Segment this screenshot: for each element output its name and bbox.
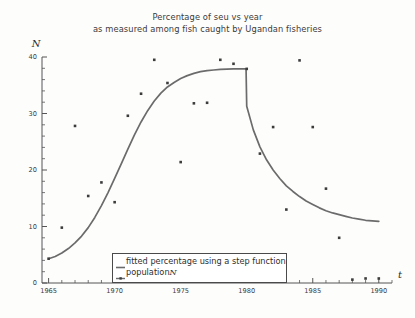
data-point-marker (325, 187, 328, 190)
legend-label-population: populationN (126, 267, 177, 278)
x-axis-tick-label: 1970 (106, 287, 123, 295)
data-point-marker (113, 201, 116, 204)
data-point-marker (166, 82, 169, 85)
data-point-marker (153, 59, 156, 62)
legend-item-population: populationN (116, 267, 282, 278)
data-point-marker (127, 114, 130, 117)
data-point-marker (61, 226, 64, 229)
chart-figure: Percentage of seu vs year as measured am… (0, 0, 415, 318)
data-point-marker (47, 257, 50, 260)
chart-legend: fitted percentage using a step function … (112, 253, 287, 283)
axes (42, 57, 392, 283)
y-axis-tick-label: 0 (33, 279, 37, 287)
data-point-marker (298, 59, 301, 62)
data-point-marker (259, 152, 262, 155)
data-point-marker (206, 101, 209, 104)
data-point-marker (100, 181, 103, 184)
legend-line-swatch-fitted (116, 257, 125, 266)
data-point-marker (364, 277, 367, 280)
fitted-step-curve (49, 69, 379, 259)
legend-label-fitted: fitted percentage using a step function (126, 256, 286, 267)
y-axis-tick-label: 30 (29, 110, 37, 118)
x-axis-tick-labels: 196519701975198019851990 (40, 287, 387, 295)
x-axis-tick-label: 1990 (370, 287, 387, 295)
x-axis-label: t (398, 269, 403, 280)
data-point-marker (74, 125, 77, 128)
y-axis-ticks (42, 57, 47, 283)
y-axis-tick-label: 20 (29, 166, 37, 174)
y-axis-label: N (31, 38, 42, 49)
data-point-marker (179, 161, 182, 164)
data-point-marker (311, 126, 314, 129)
data-point-marker (193, 102, 196, 105)
data-point-marker (232, 62, 235, 65)
data-point-marker (377, 277, 380, 280)
y-axis-tick-labels: 010203040 (29, 53, 37, 287)
x-axis-tick-label: 1975 (172, 287, 189, 295)
data-point-marker (140, 92, 143, 95)
data-point-marker (338, 237, 341, 240)
data-point-marker (351, 278, 354, 281)
x-axis-tick-label: 1985 (304, 287, 321, 295)
legend-label-population-symbol: N (170, 267, 177, 277)
x-axis-tick-label: 1980 (238, 287, 255, 295)
data-point-marker (87, 195, 90, 198)
data-point-marker (245, 68, 248, 71)
legend-marker-swatch-population (116, 268, 125, 277)
y-axis-tick-label: 40 (29, 53, 37, 61)
y-axis-tick-label: 10 (29, 223, 37, 231)
x-axis-tick-label: 1965 (40, 287, 57, 295)
data-point-marker (272, 126, 275, 129)
data-point-marker (219, 59, 222, 62)
data-point-marker (285, 208, 288, 211)
legend-label-population-text: population (126, 267, 170, 277)
population-scatter-points (47, 59, 380, 281)
legend-item-fitted: fitted percentage using a step function (116, 256, 282, 267)
